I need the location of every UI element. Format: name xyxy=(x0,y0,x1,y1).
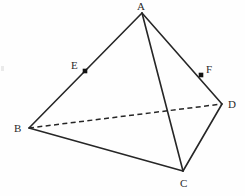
vertex-label-c: C xyxy=(180,178,187,189)
edge-cd xyxy=(183,104,222,171)
tetrahedron-diagram xyxy=(0,0,245,196)
vertex-label-a: A xyxy=(137,1,145,12)
point-label-f: F xyxy=(206,64,212,75)
point-marker-e xyxy=(83,69,88,74)
vertex-label-b: B xyxy=(14,123,21,134)
edge-crop-artifact xyxy=(1,66,4,71)
point-marker-group xyxy=(83,69,204,78)
edge-group-dashed xyxy=(29,104,222,128)
edge-bd-hidden xyxy=(29,104,222,128)
point-label-e: E xyxy=(71,60,78,71)
edge-group-solid xyxy=(29,13,222,171)
edge-bc xyxy=(29,128,183,171)
vertex-label-d: D xyxy=(228,99,236,110)
geometry-figure: A B C D E F xyxy=(0,0,245,196)
point-marker-f xyxy=(199,73,204,78)
